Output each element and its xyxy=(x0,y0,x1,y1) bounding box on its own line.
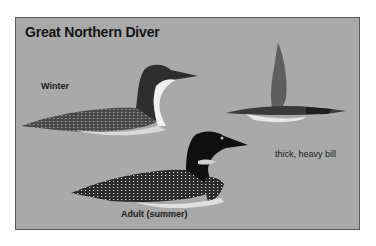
label-winter: Winter xyxy=(41,81,69,91)
label-bill-note: thick, heavy bill xyxy=(275,149,336,159)
winter-loon-icon xyxy=(21,65,198,136)
flying-loon-icon xyxy=(226,42,346,122)
loon-illustrations xyxy=(16,18,360,230)
summer-loon-icon xyxy=(71,132,248,209)
illustration-panel: Great Northern Diver xyxy=(15,17,360,230)
label-adult-summer: Adult (summer) xyxy=(121,209,188,219)
